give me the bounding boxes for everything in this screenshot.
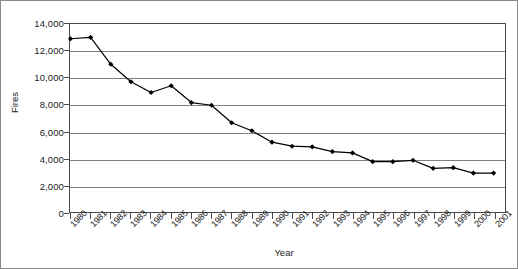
data-point-marker xyxy=(68,36,73,41)
data-point-marker xyxy=(491,170,496,175)
chart-figure: 14,00012,00010,0008,0006,0004,0002,0000 … xyxy=(0,0,518,269)
data-point-marker xyxy=(471,170,476,175)
y-axis-tick-label: 0 xyxy=(4,208,64,219)
data-point-marker xyxy=(148,90,153,95)
y-axis-title: Fires xyxy=(9,73,20,133)
y-axis-tick-mark xyxy=(64,213,69,214)
data-point-marker xyxy=(451,165,456,170)
data-point-marker xyxy=(390,159,395,164)
data-point-marker xyxy=(269,140,274,145)
data-point-marker xyxy=(370,159,375,164)
x-axis-title-text: Year xyxy=(274,247,293,258)
data-point-marker xyxy=(290,144,295,149)
data-series-fires xyxy=(70,24,505,212)
y-axis-tick-label: 2,000 xyxy=(4,180,64,191)
y-axis-tick-label: 14,000 xyxy=(4,18,64,29)
data-point-marker xyxy=(249,128,254,133)
y-axis-tick-label: 12,000 xyxy=(4,45,64,56)
series-markers xyxy=(68,35,496,176)
data-point-marker xyxy=(350,150,355,155)
plot-area xyxy=(69,23,506,213)
data-point-marker xyxy=(330,149,335,154)
y-axis-tick-label: 4,000 xyxy=(4,153,64,164)
data-point-marker xyxy=(410,158,415,163)
data-point-marker xyxy=(310,144,315,149)
x-axis-title: Year xyxy=(1,247,518,258)
series-line xyxy=(70,37,493,173)
data-point-marker xyxy=(431,166,436,171)
